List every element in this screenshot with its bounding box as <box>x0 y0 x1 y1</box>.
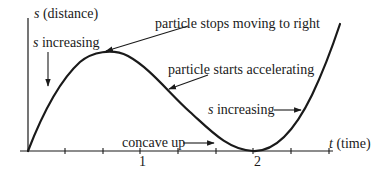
annotation-particle-stops: particle stops moving to right <box>155 17 320 31</box>
x-axis-var: t <box>329 136 333 151</box>
annotation-s-increasing-right: s increasing <box>208 103 274 117</box>
annotation-var: s <box>208 102 213 117</box>
annotation-var: s <box>33 35 38 50</box>
annotation-concave-up: concave up <box>122 136 185 150</box>
x-tick-label-2: 2 <box>254 155 261 169</box>
annotation-text: increasing <box>217 102 275 117</box>
x-axis-unit: (time) <box>336 136 370 151</box>
annotation-s-increasing-left: s increasing <box>33 36 99 50</box>
x-axis-label: t (time) <box>329 137 371 151</box>
y-axis-var: s <box>34 6 39 21</box>
y-axis-label: s (distance) <box>34 7 98 21</box>
y-axis-unit: (distance) <box>43 6 98 21</box>
annotation-particle-accelerating: particle starts accelerating <box>168 63 314 77</box>
x-tick-label-1: 1 <box>139 155 146 169</box>
arrow-particle-accelerating <box>169 75 208 89</box>
annotation-text: increasing <box>42 35 100 50</box>
